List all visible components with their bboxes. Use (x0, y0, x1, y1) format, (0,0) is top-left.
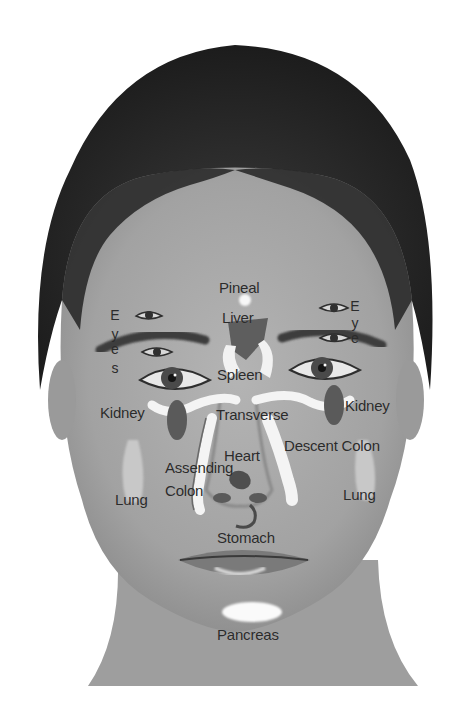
label-lung-right: Lung (343, 487, 376, 502)
kidney-left-marker (167, 400, 187, 440)
label-eye-right: E y e (350, 299, 360, 346)
face-illustration (0, 0, 471, 728)
label-descent-colon: Descent Colon (284, 438, 380, 453)
label-colon: Colon (165, 483, 203, 498)
left-ear (48, 360, 76, 440)
label-eyes-left: E y e s (110, 308, 120, 376)
label-pineal: Pineal (219, 280, 260, 295)
label-spleen: Spleen (217, 367, 263, 382)
label-kidney-right: Kidney (345, 398, 390, 413)
label-liver: Liver (222, 310, 254, 325)
label-stomach: Stomach (217, 530, 275, 545)
kidney-right-marker (324, 385, 344, 425)
label-pancreas: Pancreas (217, 627, 279, 642)
label-lung-left: Lung (115, 492, 148, 507)
right-ear (396, 360, 424, 440)
face-organ-map: Pineal Liver Spleen E y e s E y e Kidney… (0, 0, 471, 728)
label-assending: Assending (165, 460, 233, 475)
label-kidney-left: Kidney (100, 405, 145, 420)
label-transverse: Transverse (216, 407, 288, 422)
pancreas-marker (222, 602, 282, 622)
